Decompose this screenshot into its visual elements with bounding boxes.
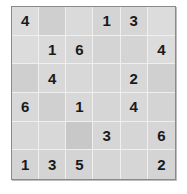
grid-cell-r2-c5[interactable] xyxy=(121,36,148,65)
grid-cell-r1-c3[interactable] xyxy=(66,7,93,36)
grid-cell-r4-c1[interactable]: 6 xyxy=(12,93,39,122)
grid-cell-r5-c2[interactable] xyxy=(39,122,66,151)
grid-cell-r2-c1[interactable] xyxy=(12,36,39,65)
grid-cell-r6-c5[interactable] xyxy=(121,150,148,179)
grid-cell-r6-c3[interactable]: 5 xyxy=(66,150,93,179)
grid-cell-r5-c3[interactable] xyxy=(66,122,93,151)
grid-cell-r3-c6[interactable] xyxy=(148,64,175,93)
grid-cell-r3-c1[interactable] xyxy=(12,64,39,93)
grid-cell-r3-c3[interactable] xyxy=(66,64,93,93)
grid-cell-r2-c6[interactable]: 4 xyxy=(148,36,175,65)
grid-cell-r1-c4[interactable]: 1 xyxy=(93,7,120,36)
grid-cell-r4-c3[interactable]: 1 xyxy=(66,93,93,122)
grid-cell-r2-c4[interactable] xyxy=(93,36,120,65)
grid-cell-r3-c2[interactable]: 4 xyxy=(39,64,66,93)
grid-cell-r2-c2[interactable]: 1 xyxy=(39,36,66,65)
grid-cell-r1-c6[interactable] xyxy=(148,7,175,36)
grid-cell-r4-c6[interactable] xyxy=(148,93,175,122)
grid-cell-r5-c4[interactable]: 3 xyxy=(93,122,120,151)
sudoku-board: 41316442614361352 xyxy=(11,6,176,180)
grid-cell-r5-c6[interactable]: 6 xyxy=(148,122,175,151)
grid-cell-r6-c1[interactable]: 1 xyxy=(12,150,39,179)
grid-cell-r5-c1[interactable] xyxy=(12,122,39,151)
grid-cell-r1-c1[interactable]: 4 xyxy=(12,7,39,36)
grid-cell-r3-c5[interactable]: 2 xyxy=(121,64,148,93)
grid-cell-r2-c3[interactable]: 6 xyxy=(66,36,93,65)
grid-cell-r1-c2[interactable] xyxy=(39,7,66,36)
grid-cell-r6-c4[interactable] xyxy=(93,150,120,179)
grid-cell-r1-c5[interactable]: 3 xyxy=(121,7,148,36)
grid-cell-r4-c5[interactable]: 4 xyxy=(121,93,148,122)
grid-cell-r4-c2[interactable] xyxy=(39,93,66,122)
grid-cell-r6-c2[interactable]: 3 xyxy=(39,150,66,179)
grid-cell-r6-c6[interactable]: 2 xyxy=(148,150,175,179)
grid-cell-r3-c4[interactable] xyxy=(93,64,120,93)
grid-cell-r5-c5[interactable] xyxy=(121,122,148,151)
grid-cell-r4-c4[interactable] xyxy=(93,93,120,122)
